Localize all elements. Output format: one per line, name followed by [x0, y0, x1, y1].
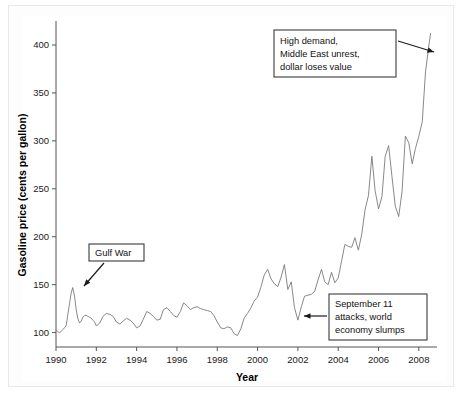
annotation-text-line: Middle East unrest, — [280, 49, 360, 59]
annotation-text-line: attacks, world — [335, 312, 392, 322]
x-tick-label: 1994 — [126, 354, 147, 365]
y-axis-title: Gasoline price (cents per gallon) — [16, 114, 28, 277]
annotation-arrowhead — [427, 48, 434, 53]
annotation-september-11: September 11attacks, worldeconomy slumps — [304, 294, 427, 340]
gasoline-price-line-chart: 1990199219941996199820002002200420062008… — [0, 0, 462, 398]
y-tick-label: 350 — [33, 87, 49, 98]
y-tick-label: 400 — [33, 39, 49, 50]
figure-container: 1990199219941996199820002002200420062008… — [0, 0, 462, 398]
x-tick-label: 2000 — [247, 354, 268, 365]
annotation-arrowhead — [304, 313, 311, 318]
annotation-text-line: dollar loses value — [280, 62, 352, 72]
x-tick-label: 1992 — [86, 354, 107, 365]
x-tick-label: 1990 — [45, 354, 66, 365]
y-tick-label: 100 — [33, 327, 49, 338]
annotation-high-demand: High demand,Middle East unrest,dollar lo… — [274, 30, 434, 77]
annotation-gulf-war: Gulf War — [84, 244, 144, 286]
x-tick-label: 2006 — [368, 354, 389, 365]
x-tick-label: 1998 — [207, 354, 228, 365]
annotation-text-line: High demand, — [280, 36, 338, 46]
x-tick-label: 2004 — [328, 354, 349, 365]
x-axis-title: Year — [236, 371, 258, 383]
x-tick-label: 1996 — [166, 354, 187, 365]
x-tick-label: 2008 — [408, 354, 429, 365]
y-tick-label: 200 — [33, 231, 49, 242]
annotation-text-line: economy slumps — [335, 325, 405, 335]
y-axis-ticks: 100150200250300350400 — [33, 39, 56, 338]
annotation-text-line: Gulf War — [95, 248, 131, 258]
x-axis-ticks: 1990199219941996199820002002200420062008 — [45, 347, 429, 365]
y-tick-label: 300 — [33, 135, 49, 146]
annotation-text-line: September 11 — [335, 299, 393, 309]
y-tick-label: 250 — [33, 183, 49, 194]
price-series-line — [56, 33, 431, 335]
y-tick-label: 150 — [33, 279, 49, 290]
x-tick-label: 2002 — [287, 354, 308, 365]
